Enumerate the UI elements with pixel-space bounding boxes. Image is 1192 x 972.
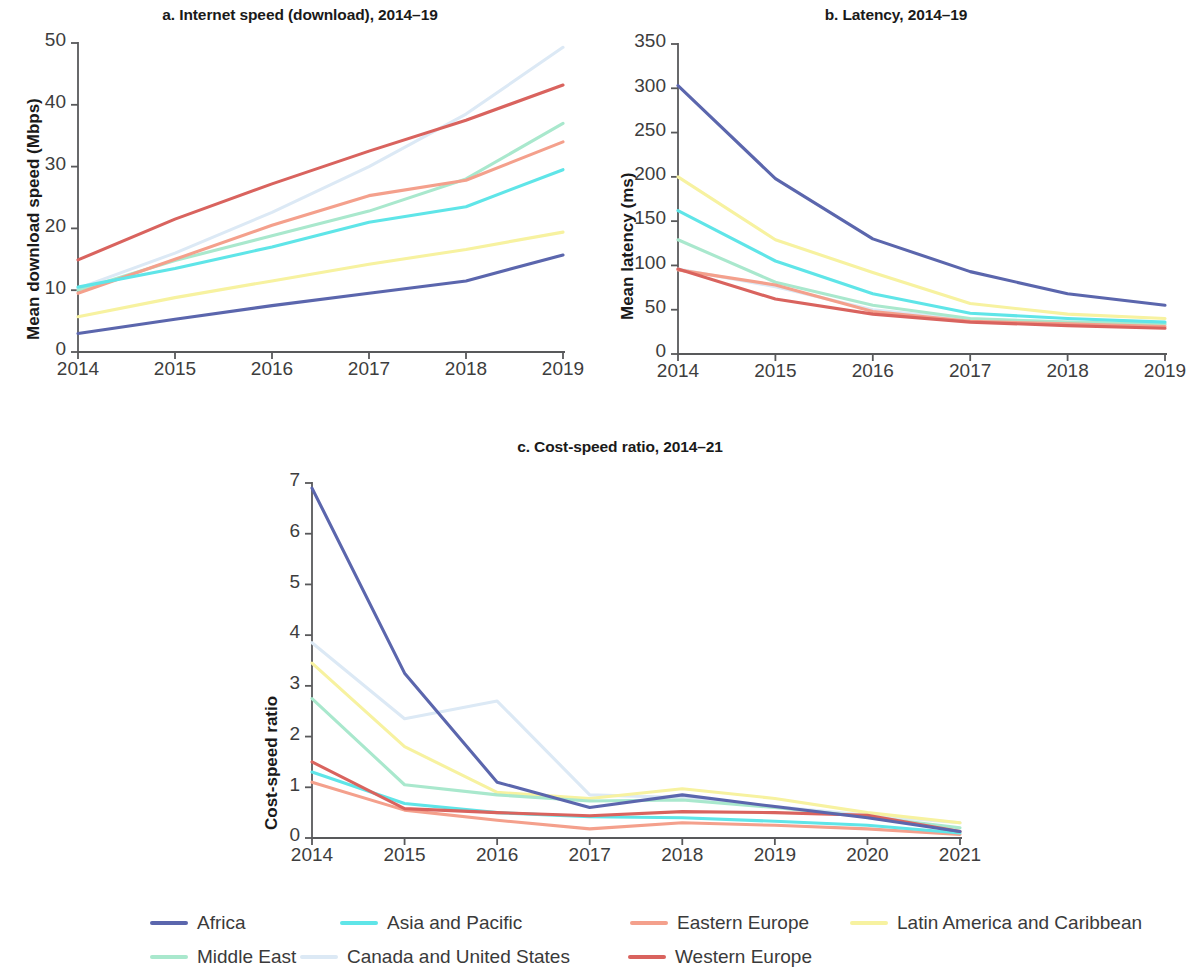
legend-swatch-icon (300, 955, 338, 959)
legend-item-africa[interactable]: Africa (150, 912, 246, 934)
chart-a-plot (0, 0, 600, 400)
legend-label: Asia and Pacific (387, 912, 522, 934)
legend-swatch-icon (150, 955, 188, 959)
legend-label: Middle East (197, 946, 296, 968)
series-line-latin-america-and-caribbean (312, 663, 960, 823)
legend-item-asia_and_pacific[interactable]: Asia and Pacific (340, 912, 522, 934)
legend-label: Western Europe (675, 946, 812, 968)
legend-item-western_europe[interactable]: Western Europe (628, 946, 812, 968)
legend-item-latin_america_and_caribbean[interactable]: Latin America and Caribbean (850, 912, 1142, 934)
legend-item-eastern_europe[interactable]: Eastern Europe (630, 912, 809, 934)
series-line-africa (312, 488, 960, 831)
legend-swatch-icon (850, 921, 888, 925)
figure-root: a. Internet speed (download), 2014–19 Me… (0, 0, 1192, 972)
legend-label: Africa (197, 912, 246, 934)
legend-row: AfricaAsia and PacificEastern EuropeLati… (150, 912, 1190, 942)
chart-panel-c: c. Cost-speed ratio, 2014–21 Cost-speed … (240, 430, 1000, 900)
series-line-asia-and-pacific (678, 211, 1165, 323)
chart-panel-b: b. Latency, 2014–19 Mean latency (ms) 05… (600, 0, 1192, 400)
legend-swatch-icon (150, 921, 188, 925)
legend-swatch-icon (630, 921, 668, 925)
legend-row: Middle EastCanada and United StatesWeste… (150, 946, 1190, 972)
chart-c-plot (240, 430, 1000, 900)
legend-label: Latin America and Caribbean (897, 912, 1142, 934)
legend-item-middle_east[interactable]: Middle East (150, 946, 296, 968)
figure-legend: AfricaAsia and PacificEastern EuropeLati… (150, 912, 1190, 972)
legend-swatch-icon (628, 955, 666, 959)
legend-item-canada_and_united_states[interactable]: Canada and United States (300, 946, 570, 968)
series-line-middle-east (78, 123, 563, 290)
legend-swatch-icon (340, 921, 378, 925)
legend-label: Eastern Europe (677, 912, 809, 934)
legend-label: Canada and United States (347, 946, 570, 968)
chart-panel-a: a. Internet speed (download), 2014–19 Me… (0, 0, 600, 400)
series-line-canada-and-united-states (312, 643, 960, 823)
chart-b-plot (600, 0, 1192, 400)
